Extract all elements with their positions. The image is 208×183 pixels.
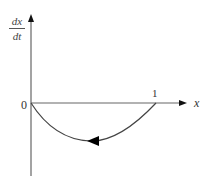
plot-canvas <box>0 0 208 183</box>
direction-arrow-icon <box>87 136 99 146</box>
y-axis-label: dx dt <box>8 15 26 42</box>
x-axis-label: x <box>194 97 199 109</box>
x-tick-label-1: 1 <box>152 88 158 99</box>
phase-diagram: dx dt 0 1 x <box>0 0 208 183</box>
y-axis-label-numerator: dx <box>8 15 26 28</box>
x-axis-arrow-icon <box>179 100 187 106</box>
phase-curve <box>31 103 156 141</box>
y-axis-label-denominator: dt <box>8 29 26 42</box>
y-axis-arrow-icon <box>28 14 34 22</box>
origin-label: 0 <box>21 99 27 111</box>
